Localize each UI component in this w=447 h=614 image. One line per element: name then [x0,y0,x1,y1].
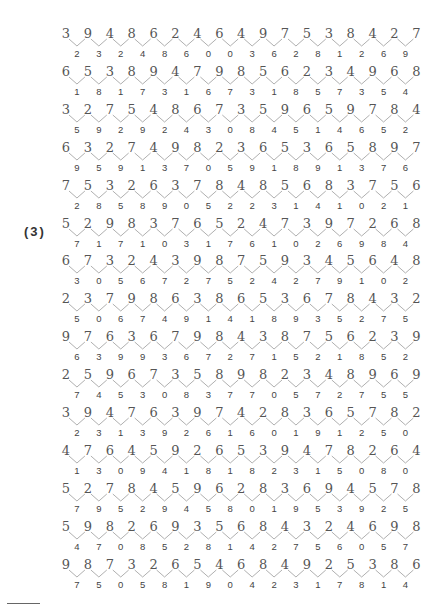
top-digit: 7 [389,482,401,496]
bottom-digit: 0 [159,238,171,249]
bottom-digit: 0 [268,389,280,400]
top-digit: 5 [148,444,160,458]
bottom-digit: 0 [356,200,368,211]
top-digit: 9 [191,254,203,268]
bottom-digit: 8 [290,86,302,97]
top-digit: 3 [126,330,138,344]
bottom-digit: 7 [159,275,171,286]
top-digit: 9 [170,141,182,155]
bottom-digit: 3 [159,86,171,97]
bottom-digit: 8 [246,124,258,135]
top-digit: 8 [410,217,422,231]
bottom-digit: 2 [356,48,368,59]
bottom-digit: 1 [115,427,127,438]
top-digit: 5 [82,368,94,382]
top-digit: 6 [345,330,357,344]
top-digit: 3 [191,292,203,306]
bottom-digit: 9 [115,351,127,362]
bottom-digit: 5 [159,541,171,552]
top-digit: 8 [257,368,269,382]
bottom-digit: 1 [356,275,368,286]
top-digit: 7 [170,217,182,231]
top-digit: 4 [235,179,247,193]
digit-row: 632749823653658979591370591891376 [0,141,447,179]
top-digit: 4 [345,65,357,79]
top-digit: 7 [235,254,247,268]
bottom-digit: 0 [224,579,236,590]
bottom-digit: 9 [159,427,171,438]
top-digit: 8 [389,406,401,420]
bottom-digit: 3 [93,427,105,438]
bottom-digit: 9 [356,503,368,514]
bottom-digit: 9 [137,124,149,135]
top-digit: 3 [191,520,203,534]
bottom-digit: 8 [93,86,105,97]
bottom-digit: 2 [71,200,83,211]
digit-row: 753263784856837562858905223141021 [0,179,447,217]
top-digit: 9 [148,65,160,79]
bottom-digit: 1 [312,465,324,476]
top-digit: 6 [213,444,225,458]
bottom-digit: 1 [334,48,346,59]
digit-row: 394862464975384272324860036281269 [0,27,447,65]
top-digit: 2 [410,406,422,420]
bottom-digit: 1 [290,200,302,211]
bottom-digit: 7 [312,389,324,400]
top-digit: 5 [345,141,357,155]
top-digit: 6 [301,292,313,306]
bottom-digit: 8 [268,313,280,324]
bottom-digit: 1 [312,124,324,135]
top-digit: 7 [323,444,335,458]
digit-row: 259673589823489697453083770572755 [0,368,447,406]
bottom-digit: 2 [137,503,149,514]
top-digit: 3 [301,254,313,268]
top-digit: 3 [170,368,182,382]
bottom-digit: 5 [137,579,149,590]
top-digit: 7 [82,330,94,344]
top-digit: 5 [301,27,313,41]
top-digit: 8 [410,482,422,496]
top-digit: 5 [345,254,357,268]
bottom-digit: 9 [399,48,411,59]
top-digit: 6 [235,292,247,306]
top-digit: 7 [410,27,422,41]
top-digit: 3 [279,482,291,496]
bottom-digit: 2 [159,124,171,135]
top-digit: 9 [170,520,182,534]
bottom-digit: 5 [71,124,83,135]
top-digit: 2 [82,482,94,496]
bottom-digit: 9 [202,579,214,590]
top-digit: 6 [60,254,72,268]
bottom-digit: 1 [202,313,214,324]
top-digit: 4 [104,406,116,420]
top-digit: 3 [170,406,182,420]
bottom-digit: 9 [290,313,302,324]
bottom-digit: 7 [137,86,149,97]
bottom-digit: 4 [312,200,324,211]
top-digit: 3 [257,330,269,344]
top-digit: 6 [104,444,116,458]
bottom-digit: 2 [224,351,236,362]
bottom-digit: 1 [378,579,390,590]
bottom-digit: 5 [290,389,302,400]
bottom-digit: 3 [246,48,258,59]
top-digit: 2 [235,482,247,496]
bottom-digit: 7 [224,389,236,400]
top-digit: 8 [345,292,357,306]
top-digit: 8 [213,368,225,382]
top-digit: 8 [148,292,160,306]
bottom-digit: 8 [159,48,171,59]
bottom-digit: 2 [399,351,411,362]
top-digit: 5 [235,444,247,458]
bottom-digit: 1 [334,162,346,173]
top-digit: 4 [148,141,160,155]
bottom-digit: 5 [224,275,236,286]
bottom-digit: 3 [159,351,171,362]
bottom-digit: 5 [290,351,302,362]
bottom-digit: 8 [356,579,368,590]
bottom-digit: 6 [246,238,258,249]
bottom-digit: 5 [312,503,324,514]
top-digit: 2 [82,217,94,231]
top-digit: 9 [279,254,291,268]
bottom-digit: 5 [378,541,390,552]
